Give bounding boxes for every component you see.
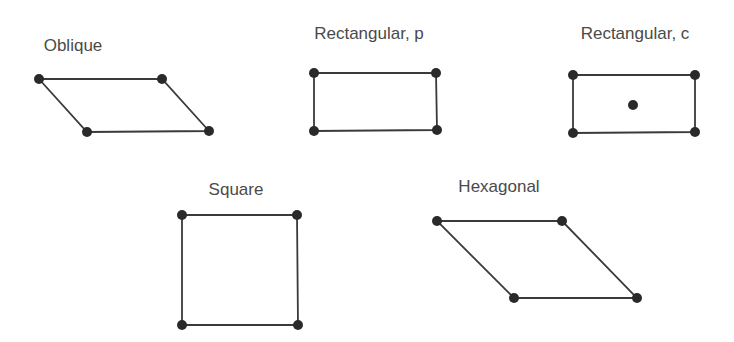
lattice-point: [204, 126, 214, 136]
label-square: Square: [209, 180, 264, 200]
lattice-point: [632, 293, 642, 303]
lattice-point: [82, 127, 92, 137]
lattice-point: [557, 216, 567, 226]
lattice-point: [432, 216, 442, 226]
lattice-diagram: [0, 0, 734, 342]
label-rectangular-p: Rectangular, p: [314, 24, 424, 44]
lattice-point: [177, 320, 187, 330]
lattice-point: [157, 74, 167, 84]
lattice-point: [690, 70, 700, 80]
lattice-point: [509, 293, 519, 303]
lattice-point: [568, 70, 578, 80]
label-hexagonal: Hexagonal: [458, 177, 539, 197]
lattice-square: [177, 210, 303, 330]
lattice-point: [568, 128, 578, 138]
lattice-point: [309, 68, 319, 78]
lattice-point: [177, 210, 187, 220]
lattice-point: [34, 74, 44, 84]
lattice-point: [292, 210, 302, 220]
lattice-point: [293, 320, 303, 330]
lattice-rectangular-p: [309, 68, 442, 136]
label-rectangular-c: Rectangular, c: [581, 24, 690, 44]
unit-cell-outline: [39, 79, 209, 132]
lattice-point: [431, 68, 441, 78]
unit-cell-outline: [314, 73, 437, 131]
lattice-oblique: [34, 74, 214, 137]
lattice-rectangular-c: [568, 70, 700, 138]
lattice-point: [432, 125, 442, 135]
lattice-point: [690, 127, 700, 137]
center-lattice-point: [628, 100, 638, 110]
label-oblique: Oblique: [44, 36, 103, 56]
unit-cell-outline: [182, 215, 298, 325]
unit-cell-outline: [437, 221, 637, 298]
lattice-point: [309, 126, 319, 136]
lattice-hexagonal: [432, 216, 642, 303]
